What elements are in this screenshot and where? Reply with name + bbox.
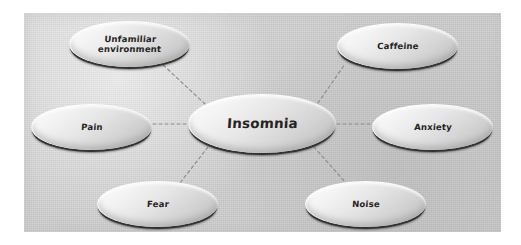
mind-map-diagram: Unfamiliar environment Caffeine Pain Anx… (0, 0, 521, 245)
node-caffeine[interactable]: Caffeine (337, 23, 458, 69)
node-fear[interactable]: Fear (97, 181, 218, 227)
node-noise-label: Noise (306, 200, 427, 210)
node-caffeine-label: Caffeine (338, 42, 459, 52)
node-anxiety-label: Anxiety (373, 123, 494, 133)
node-insomnia-center[interactable]: Insomnia (188, 94, 336, 153)
node-anxiety[interactable]: Anxiety (372, 104, 493, 150)
node-noise[interactable]: Noise (305, 181, 426, 227)
node-pain-label: Pain (32, 123, 153, 133)
node-insomnia-label: Insomnia (188, 116, 336, 131)
node-unfamiliar-environment-label: Unfamiliar environment (69, 35, 190, 54)
node-pain[interactable]: Pain (31, 104, 152, 150)
node-unfamiliar-environment[interactable]: Unfamiliar environment (69, 21, 190, 67)
node-fear-label: Fear (98, 200, 219, 210)
